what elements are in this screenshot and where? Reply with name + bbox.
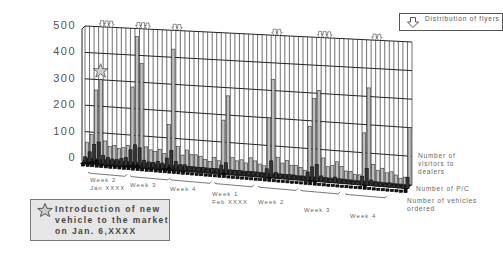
y-tick-label: 0 — [36, 151, 76, 163]
y-tick-label: 500 — [36, 19, 76, 31]
down-arrow-icon — [407, 17, 419, 28]
week-label: Week 2 Jan XXXX — [90, 176, 125, 192]
y-tick-label: 400 — [36, 45, 76, 57]
series-label-visitors: Number of visitors to dealers — [418, 152, 462, 176]
week-label: Week 3 — [130, 181, 156, 189]
week-label: Week 1 Feb XXXX — [212, 190, 248, 206]
week-label: Week 2 — [258, 198, 284, 206]
week-label: Week 3 — [304, 206, 330, 214]
flyer-legend-label: Distribution of flyers — [425, 15, 501, 22]
launch-star-icon — [93, 64, 108, 78]
series-label-orders: Number of vehicles ordered — [407, 197, 497, 213]
week-label: Week 4 — [350, 212, 376, 220]
star-icon — [37, 203, 53, 217]
flyer-legend: Distribution of flyers — [399, 13, 503, 31]
week-label: Week 4 — [170, 185, 196, 193]
y-tick-label: 200 — [36, 98, 76, 110]
launch-note-text: Introduction of new vehicle to the marke… — [55, 204, 171, 237]
y-tick-label: 300 — [36, 72, 76, 84]
launch-note: Introduction of new vehicle to the marke… — [30, 199, 170, 241]
series-label-pc: Number of P/C — [416, 185, 496, 193]
y-tick-label: 100 — [36, 125, 76, 137]
